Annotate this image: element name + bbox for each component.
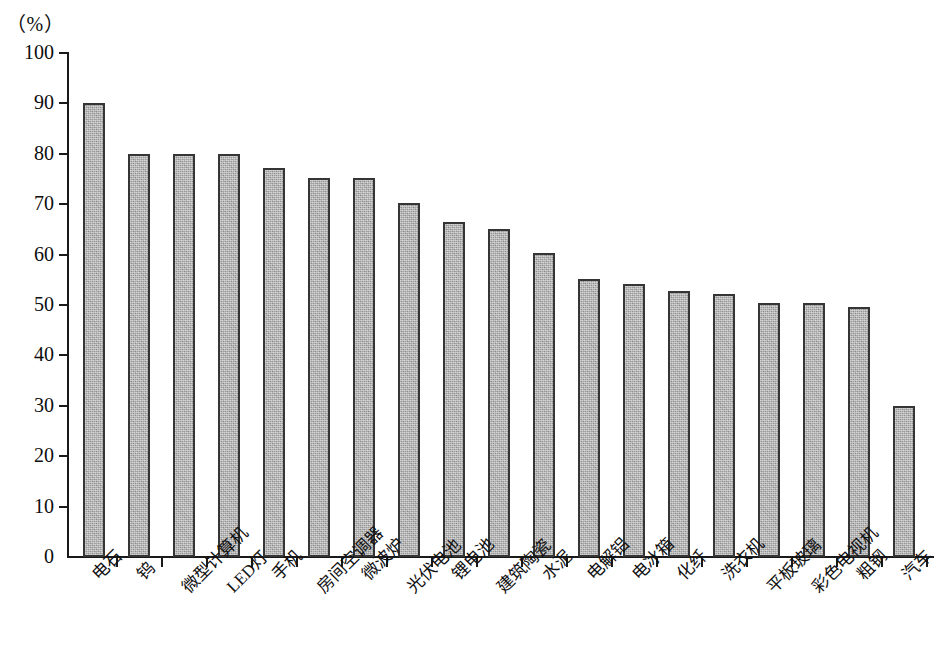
bar (893, 406, 915, 557)
bar (668, 291, 690, 557)
bar (578, 279, 600, 557)
bar (128, 154, 150, 557)
y-axis-tick-label: 50 (34, 294, 54, 314)
y-axis-tick (59, 455, 68, 457)
y-axis-tick (59, 304, 68, 306)
bar (848, 307, 870, 557)
y-axis-tick-label: 80 (34, 143, 54, 163)
bar (803, 303, 825, 557)
y-axis-tick-labels: 1009080706050403020100 (0, 0, 54, 652)
y-axis-tick (59, 102, 68, 104)
x-axis-category-label: 钨 (133, 558, 158, 583)
bar (533, 253, 555, 557)
y-axis-tick (59, 52, 68, 54)
y-axis-tick-label: 90 (34, 92, 54, 112)
y-axis-tick (59, 354, 68, 356)
bar (398, 203, 420, 557)
y-axis-tick-label: 0 (44, 546, 54, 566)
y-axis-tick (59, 153, 68, 155)
bar (353, 178, 375, 557)
bar (173, 154, 195, 557)
bar (308, 178, 330, 557)
y-axis-tick-label: 10 (34, 496, 54, 516)
y-axis-tick-label: 60 (34, 244, 54, 264)
y-axis-tick-label: 100 (24, 42, 54, 62)
bar (83, 103, 105, 557)
bar (623, 284, 645, 557)
bar (263, 168, 285, 557)
y-axis-tick-label: 70 (34, 193, 54, 213)
bar (713, 294, 735, 557)
y-axis-tick (59, 506, 68, 508)
y-axis-tick (59, 203, 68, 205)
bar (443, 222, 465, 557)
bar-chart: （%） 1009080706050403020100 电石钨微型计算机LED灯手… (0, 0, 941, 652)
x-axis-tick (161, 558, 163, 567)
y-axis-tick (59, 405, 68, 407)
y-axis-tick-label: 20 (34, 445, 54, 465)
bar (758, 303, 780, 557)
y-axis-tick-label: 40 (34, 344, 54, 364)
y-axis-tick (59, 254, 68, 256)
y-axis-tick-label: 30 (34, 395, 54, 415)
bar (218, 154, 240, 557)
bar (488, 229, 510, 557)
